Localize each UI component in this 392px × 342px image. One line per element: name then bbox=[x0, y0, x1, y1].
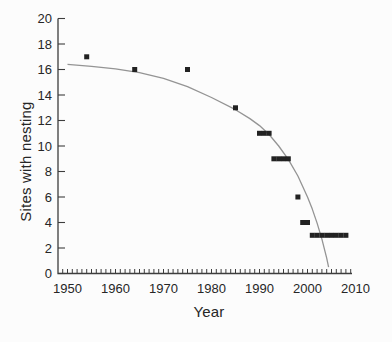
data-point-marker bbox=[233, 105, 238, 110]
data-point-marker bbox=[319, 233, 324, 238]
data-point-marker bbox=[276, 156, 281, 161]
data-point-marker bbox=[339, 233, 344, 238]
data-point-marker bbox=[310, 233, 315, 238]
y-axis-title: Sites with nesting bbox=[17, 97, 34, 227]
data-point-marker bbox=[315, 233, 320, 238]
data-point-marker bbox=[262, 131, 267, 136]
data-point-marker bbox=[300, 220, 305, 225]
data-point-marker bbox=[132, 67, 137, 72]
x-tick-label: 1990 bbox=[245, 281, 274, 296]
y-tick-label: 14 bbox=[38, 88, 52, 103]
y-tick-label: 6 bbox=[45, 190, 52, 205]
x-tick-label: 1960 bbox=[101, 281, 130, 296]
fitted-curve bbox=[68, 64, 329, 267]
figure: 0246810121416182019501960197019801990200… bbox=[0, 0, 392, 342]
y-tick-label: 4 bbox=[45, 215, 52, 230]
data-point-marker bbox=[267, 131, 272, 136]
x-tick-label: 1950 bbox=[53, 281, 82, 296]
data-point-marker bbox=[305, 220, 310, 225]
y-tick-label: 12 bbox=[38, 113, 52, 128]
x-tick-label: 2010 bbox=[341, 281, 370, 296]
x-axis-title: Year bbox=[59, 303, 359, 320]
data-point-marker bbox=[334, 233, 339, 238]
y-tick-label: 0 bbox=[45, 266, 52, 281]
x-tick-label: 2000 bbox=[293, 281, 322, 296]
data-point-marker bbox=[329, 233, 334, 238]
y-tick-label: 2 bbox=[45, 241, 52, 256]
data-point-marker bbox=[185, 67, 190, 72]
x-tick-label: 1980 bbox=[197, 281, 226, 296]
x-tick-label: 1970 bbox=[149, 281, 178, 296]
y-tick-label: 20 bbox=[38, 11, 52, 26]
scatter-chart: 0246810121416182019501960197019801990200… bbox=[0, 0, 392, 342]
y-tick-label: 8 bbox=[45, 164, 52, 179]
data-point-marker bbox=[271, 156, 276, 161]
y-tick-label: 18 bbox=[38, 37, 52, 52]
data-point-marker bbox=[84, 54, 89, 59]
data-point-marker bbox=[324, 233, 329, 238]
data-point-marker bbox=[281, 156, 286, 161]
data-point-marker bbox=[257, 131, 262, 136]
y-tick-label: 16 bbox=[38, 62, 52, 77]
data-point-marker bbox=[286, 156, 291, 161]
data-point-marker bbox=[295, 195, 300, 200]
axes bbox=[58, 19, 352, 274]
y-tick-label: 10 bbox=[38, 139, 52, 154]
data-point-marker bbox=[343, 233, 348, 238]
